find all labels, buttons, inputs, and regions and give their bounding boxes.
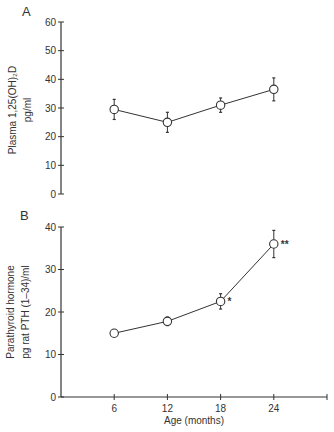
x-tick-label: 24: [268, 403, 280, 414]
y-axis-title: Plasma 1,25(OH)₂D: [7, 66, 18, 154]
data-point-marker: [163, 118, 171, 126]
data-point-marker: [216, 297, 224, 305]
y-tick-label: 0: [50, 392, 56, 403]
y-tick-label: 60: [45, 17, 57, 28]
y-tick-label: 30: [45, 264, 57, 275]
panel-label: A: [22, 4, 31, 19]
y-axis-units: pg/ml: [22, 98, 33, 122]
x-tick-label: 6: [111, 403, 117, 414]
y-tick-label: 10: [45, 160, 57, 171]
data-point-marker: [163, 317, 171, 325]
x-axis-title: Age (months): [164, 415, 224, 426]
y-tick-label: 0: [50, 189, 56, 200]
data-point-marker: [270, 240, 278, 248]
y-tick-label: 40: [45, 222, 57, 233]
data-point-marker: [270, 85, 278, 93]
y-axis-title: Parathyroid hormone: [5, 265, 16, 359]
y-tick-label: 50: [45, 45, 57, 56]
y-tick-label: 30: [45, 103, 57, 114]
panel-label: B: [20, 208, 29, 223]
y-tick-label: 40: [45, 74, 57, 85]
y-axis-units: pg rat PTH (1–34)/ml: [20, 265, 31, 358]
y-tick-label: 20: [45, 307, 57, 318]
significance-annotation: *: [228, 296, 232, 307]
data-point-marker: [110, 329, 118, 337]
panel-a: A0102030405060Plasma 1,25(OH)₂Dpg/ml: [7, 4, 278, 200]
significance-annotation: **: [281, 239, 289, 250]
y-tick-label: 10: [45, 349, 57, 360]
x-tick-label: 12: [162, 403, 174, 414]
data-line: [114, 244, 274, 333]
data-point-marker: [110, 105, 118, 113]
data-point-marker: [216, 101, 224, 109]
y-tick-label: 20: [45, 131, 57, 142]
x-tick-label: 18: [215, 403, 227, 414]
data-line: [114, 89, 274, 122]
figure: A0102030405060Plasma 1,25(OH)₂Dpg/ml B01…: [0, 0, 334, 432]
panel-b: B010203040Parathyroid hormonepg rat PTH …: [5, 208, 327, 426]
